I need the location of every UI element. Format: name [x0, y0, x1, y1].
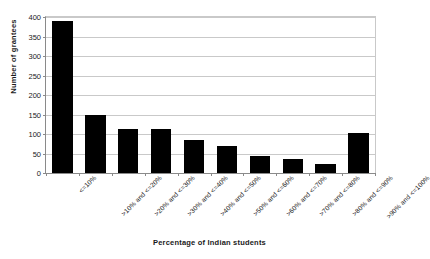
- y-tick-label: 300: [28, 52, 41, 61]
- y-tick-label: 200: [28, 91, 41, 100]
- bars-group: [46, 17, 375, 173]
- y-tick-label: 0: [37, 169, 41, 178]
- bar: [52, 21, 72, 173]
- bar: [85, 115, 105, 173]
- y-tick-label: 150: [28, 110, 41, 119]
- y-tick-label: 250: [28, 71, 41, 80]
- bar: [348, 133, 368, 173]
- bar: [118, 129, 138, 173]
- x-tick-mark: [375, 173, 376, 176]
- y-tick-label: 50: [33, 149, 41, 158]
- x-category-label: <=10%: [78, 174, 98, 194]
- bar: [283, 159, 303, 173]
- bar: [217, 146, 237, 173]
- bar: [184, 140, 204, 173]
- bar: [315, 164, 335, 173]
- plot-area: 050100150200250300350400: [45, 16, 376, 174]
- y-tick-label: 350: [28, 32, 41, 41]
- y-axis-title: Number of grantees: [9, 2, 18, 112]
- y-tick-label: 100: [28, 130, 41, 139]
- x-axis-title: Percentage of Indian students: [45, 238, 374, 247]
- x-axis-category-labels: <=10%>10% and <=20%>20% and <=30%>30% an…: [45, 174, 374, 236]
- y-tick-label: 400: [28, 13, 41, 22]
- bar: [151, 129, 171, 173]
- bar: [250, 156, 270, 173]
